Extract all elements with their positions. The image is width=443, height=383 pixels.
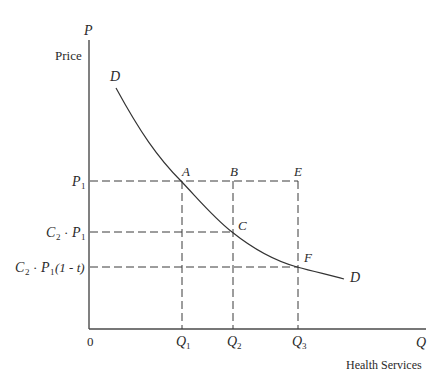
y-tick-c2p1-c: C — [46, 225, 56, 240]
x-tick-q1: Q 1 — [176, 334, 191, 351]
x-tick-q1-main: Q — [176, 334, 186, 349]
point-f-label: F — [303, 250, 313, 265]
x-tick-q2: Q 2 — [227, 334, 242, 351]
y-tick-c2p1t-p-sub: 1 — [50, 267, 55, 277]
y-tick-c2p1: C 2 · P 1 — [46, 225, 86, 242]
y-tick-c2p1-p: P — [71, 225, 81, 240]
demand-diagram: P Price Q Health Services 0 D D A B E C … — [0, 0, 443, 383]
point-b-label: B — [230, 164, 238, 179]
y-tick-c2p1t-p: P — [40, 260, 50, 275]
x-tick-q3: Q 3 — [292, 334, 307, 351]
y-tick-c2p1t-dot: · — [33, 260, 37, 275]
point-a-label: A — [181, 164, 190, 179]
y-tick-c2p1t-c: C — [15, 260, 25, 275]
y-tick-p1-main: P — [71, 174, 81, 189]
y-tick-c2p1t-tail: (1 - t) — [55, 260, 85, 275]
y-tick-c2p1t: C 2 · P 1 (1 - t) — [15, 260, 85, 277]
y-tick-p1: P 1 — [71, 174, 86, 191]
x-tick-q2-sub: 2 — [237, 341, 242, 351]
origin-label: 0 — [87, 334, 94, 349]
y-tick-c2p1-dot: · — [64, 225, 68, 240]
y-tick-p1-sub: 1 — [81, 181, 86, 191]
y-tick-c2p1t-c-sub: 2 — [25, 267, 30, 277]
x-axis-label: Health Services — [346, 358, 422, 372]
demand-curve-label-end: D — [349, 270, 360, 285]
x-tick-q1-sub: 1 — [186, 341, 191, 351]
y-tick-c2p1-p-sub: 1 — [81, 232, 86, 242]
y-axis-label: Price — [55, 48, 82, 63]
x-axis-symbol: Q — [416, 335, 426, 350]
point-c-label: C — [238, 218, 247, 233]
point-e-label: E — [293, 164, 302, 179]
y-axis-symbol: P — [83, 23, 93, 38]
x-tick-q3-sub: 3 — [302, 341, 307, 351]
y-tick-c2p1-c-sub: 2 — [56, 232, 61, 242]
x-tick-q3-main: Q — [292, 334, 302, 349]
demand-curve-label-start: D — [109, 69, 120, 84]
x-tick-q2-main: Q — [227, 334, 237, 349]
